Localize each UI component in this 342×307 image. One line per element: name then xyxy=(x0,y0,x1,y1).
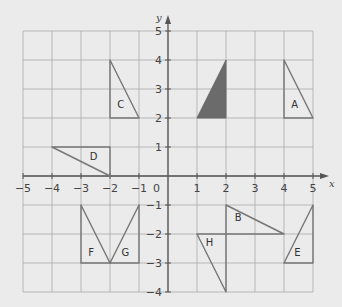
y-tick-label: −2 xyxy=(146,228,162,241)
origin-label: 0 xyxy=(153,182,160,195)
y-axis-label: y xyxy=(155,12,162,23)
x-tick-label: 4 xyxy=(281,182,288,195)
shape-label-f: F xyxy=(88,247,94,258)
x-tick-label: −2 xyxy=(102,182,118,195)
x-axis-label: x xyxy=(329,178,335,189)
shape-label-d: D xyxy=(90,151,98,162)
x-tick-label: 1 xyxy=(194,182,201,195)
y-tick-label: 4 xyxy=(155,54,162,67)
x-tick-label: −1 xyxy=(131,182,147,195)
x-tick-label: −5 xyxy=(15,182,31,195)
x-tick-label: 5 xyxy=(310,182,317,195)
y-tick-label: 1 xyxy=(155,141,162,154)
coordinate-grid-diagram: xy −5−4−3−2−11234554321−1−2−3−40 ABCDEFG… xyxy=(0,0,342,307)
x-tick-label: −3 xyxy=(73,182,89,195)
y-tick-label: −3 xyxy=(146,257,162,270)
tick-labels: −5−4−3−2−11234554321−1−2−3−40 xyxy=(15,25,317,299)
axes: xy xyxy=(23,12,335,292)
x-axis-arrow-icon xyxy=(320,173,329,179)
shape-label-b: B xyxy=(235,212,242,223)
y-axis-arrow-icon xyxy=(165,15,171,24)
x-tick-label: −4 xyxy=(44,182,60,195)
y-tick-label: 2 xyxy=(155,112,162,125)
shape-label-a: A xyxy=(291,99,298,110)
shape-label-c: C xyxy=(117,99,124,110)
shape-label-e: E xyxy=(294,247,300,258)
shape-label-h: H xyxy=(206,237,214,248)
y-tick-label: 5 xyxy=(155,25,162,38)
x-tick-label: 2 xyxy=(223,182,230,195)
y-tick-label: −1 xyxy=(146,199,162,212)
y-tick-label: −4 xyxy=(146,286,162,299)
shape-label-g: G xyxy=(122,247,130,258)
x-tick-label: 3 xyxy=(252,182,259,195)
y-tick-label: 3 xyxy=(155,83,162,96)
